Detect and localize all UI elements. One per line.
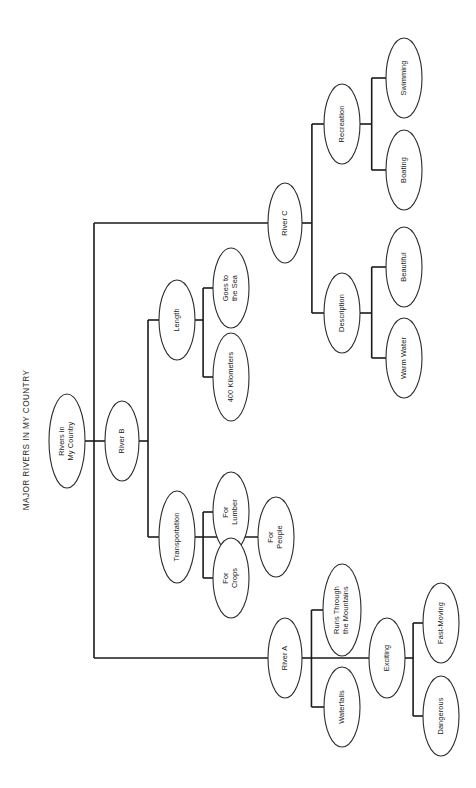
node-label-dangerous: Dangerous	[436, 697, 445, 734]
node-label-mountains: the Mountains	[341, 586, 350, 634]
rivers-tree-diagram: Rivers inMy CountryRiver CRiver BRiver A…	[0, 0, 476, 788]
node-label-forlumber: Lumber	[230, 499, 239, 525]
node-label-forlumber: For	[221, 506, 230, 518]
node-label-recreation: Recreation	[337, 106, 346, 143]
node-forpeople[interactable]: ForPeople	[258, 497, 294, 577]
node-forcrops[interactable]: ForCrops	[213, 538, 249, 618]
page-title: MAJOR RIVERS IN MY COUNTRY	[22, 370, 31, 511]
node-label-root: Rivers in	[57, 426, 66, 456]
node-waterfalls[interactable]: Waterfalls	[324, 667, 360, 747]
node-boating[interactable]: Boating	[386, 130, 422, 210]
node-dangerous[interactable]: Dangerous	[423, 676, 459, 756]
title-layer: MAJOR RIVERS IN MY COUNTRY	[22, 370, 31, 511]
node-label-mountains: Runs Through	[332, 586, 341, 634]
node-label-boating: Boating	[399, 157, 408, 183]
node-label-swimming: Swimming	[399, 61, 408, 96]
node-label-goestosea: the Sea	[230, 274, 239, 301]
node-riverB[interactable]: River B	[105, 401, 139, 481]
node-label-riverC: River C	[280, 210, 289, 236]
node-recreation[interactable]: Recreation	[324, 84, 360, 164]
node-label-root: My Country	[66, 421, 75, 460]
node-label-exciting: Exciting	[382, 645, 391, 672]
node-label-length: Length	[172, 308, 181, 331]
node-label-forpeople: People	[275, 525, 284, 549]
node-warmwater[interactable]: Warm Water	[386, 318, 422, 398]
node-label-waterfalls: Waterfalls	[337, 690, 346, 724]
node-label-transport: Transportation	[172, 513, 181, 562]
node-label-kilometers: 400 Kilometers	[226, 351, 235, 402]
node-label-beautiful: Beautiful	[399, 252, 408, 282]
node-riverA[interactable]: River A	[268, 618, 302, 698]
node-label-warmwater: Warm Water	[399, 337, 408, 379]
node-label-forpeople: For	[266, 531, 275, 543]
node-label-riverB: River B	[117, 429, 126, 454]
edge-layer	[85, 78, 423, 716]
node-swimming[interactable]: Swimming	[386, 38, 422, 118]
node-transport[interactable]: Transportation	[159, 491, 195, 583]
node-label-riverA: River A	[280, 646, 289, 671]
node-root[interactable]: Rivers inMy Country	[49, 394, 85, 488]
node-label-fastmoving: Fast-Moving	[436, 602, 445, 644]
node-length[interactable]: Length	[159, 280, 195, 360]
node-kilometers[interactable]: 400 Kilometers	[213, 333, 249, 421]
node-label-forcrops: Crops	[230, 568, 239, 588]
node-riverC[interactable]: River C	[268, 183, 302, 263]
node-exciting[interactable]: Exciting	[369, 618, 405, 698]
node-label-goestosea: Goes to	[221, 275, 230, 302]
node-description[interactable]: Description	[324, 273, 360, 353]
node-goestosea[interactable]: Goes tothe Sea	[213, 248, 249, 328]
node-layer: Rivers inMy CountryRiver CRiver BRiver A…	[49, 38, 459, 756]
node-beautiful[interactable]: Beautiful	[386, 227, 422, 307]
diagram-canvas: Rivers inMy CountryRiver CRiver BRiver A…	[0, 0, 476, 788]
node-label-description: Description	[337, 294, 346, 332]
node-fastmoving[interactable]: Fast-Moving	[423, 583, 459, 663]
node-mountains[interactable]: Runs Throughthe Mountains	[323, 564, 361, 656]
node-label-forcrops: For	[221, 572, 230, 584]
